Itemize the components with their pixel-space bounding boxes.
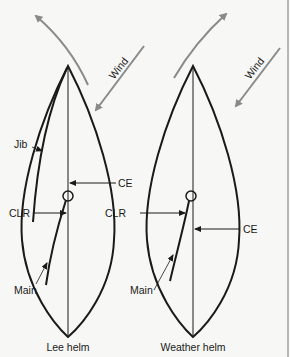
jib-label: Jib	[14, 138, 28, 150]
clr-label: CLR	[105, 207, 126, 219]
caption-lee-helm: Lee helm	[46, 341, 89, 353]
main-label: Main	[130, 284, 153, 296]
caption-weather-helm: Weather helm	[160, 341, 225, 353]
jib-sail	[33, 68, 67, 222]
page-border-line	[287, 0, 289, 357]
ce-label: CE	[118, 177, 133, 189]
airflow-curve-arrow	[174, 14, 226, 78]
clr-label: CLR	[9, 207, 30, 219]
airflow-curve-arrow	[36, 16, 88, 85]
main-pointer	[36, 263, 47, 284]
ce-label: CE	[243, 223, 258, 235]
wind-label: Wind	[242, 55, 266, 81]
mast-icon	[186, 191, 196, 201]
main-label: Main	[14, 284, 37, 296]
sail-balance-diagram: Wind Jib Main CE CLR Lee helm	[0, 0, 290, 357]
lee-helm-diagram: Wind Jib Main CE CLR Lee helm	[9, 16, 144, 353]
main-pointer	[154, 255, 173, 290]
